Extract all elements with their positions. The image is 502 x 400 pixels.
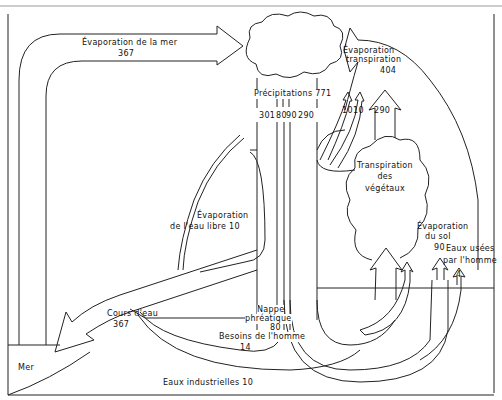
sea-label: Mer xyxy=(18,363,34,373)
river-value: 367 xyxy=(113,320,129,330)
soil-evap-label-1: Évaporation xyxy=(417,222,468,232)
free-water-evap-label-1: Évaporation xyxy=(197,211,248,221)
free-water-evap-label-2: de l'eau libre 10 xyxy=(170,222,240,232)
river-label: Cours d'eau xyxy=(107,309,158,319)
free-water-evap-down xyxy=(178,200,198,270)
evapotranspiration-value: 404 xyxy=(380,66,396,76)
evapotranspiration-label-2: transpiration xyxy=(346,55,401,65)
plant-transpiration-label-2: des xyxy=(355,172,415,182)
wastewater-arrow xyxy=(420,268,465,360)
plant-transpiration-label-1: Transpiration xyxy=(355,161,415,171)
u-channel-inner xyxy=(317,300,395,345)
transpiration-value: 290 xyxy=(374,106,390,116)
tree-shape xyxy=(346,136,429,260)
loop-channel xyxy=(317,130,355,171)
u-channel-outer2 xyxy=(284,280,448,382)
industrial-water-label: Eaux industrielles 10 xyxy=(163,378,253,388)
wastewater-label-1: Eaux usées xyxy=(446,244,495,254)
root-grass-arrow xyxy=(360,262,413,335)
sea-evaporation-value: 367 xyxy=(118,49,134,59)
precip-value-90: 90 xyxy=(286,111,297,121)
soil-evap-label-2: du sol xyxy=(425,232,451,242)
soil-evap-value: 90 xyxy=(434,243,445,253)
groundwater-label-2: phréatique xyxy=(245,314,292,324)
plant-transpiration-label-3: végétaux xyxy=(355,184,415,194)
u-channel-outer xyxy=(290,280,432,370)
sea-evaporation-arrow xyxy=(19,26,243,345)
human-needs-value: 14 xyxy=(240,343,251,353)
sea-evaporation-label: Évaporation de la mer xyxy=(82,38,177,48)
free-water-evap-channel xyxy=(194,135,244,202)
precip-value-290: 290 xyxy=(298,111,314,121)
cloud-shape xyxy=(246,12,343,78)
small-flow-value-2: 10 xyxy=(353,106,364,116)
precip-value-301: 301 xyxy=(259,111,275,121)
human-needs-label: Besoins de l'homme xyxy=(219,332,305,342)
precipitation-label: Précipitations 771 xyxy=(254,89,331,99)
wastewater-label-2: par l'homme xyxy=(443,256,497,266)
wastewater-value: 4 xyxy=(456,270,461,280)
small-flow-value-1: 10 xyxy=(342,106,353,116)
tree-trunk-arrow xyxy=(370,248,402,300)
